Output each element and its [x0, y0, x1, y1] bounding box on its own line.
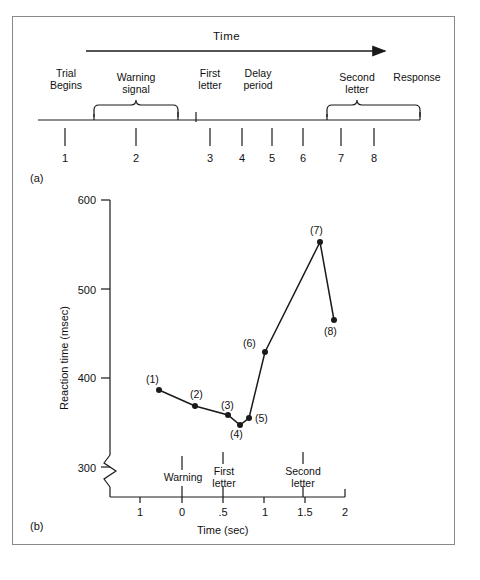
- panel-b-tag: (b): [30, 520, 43, 532]
- chart-event-first-letter: First letter: [196, 466, 252, 489]
- timeline-tick-label-6: 6: [293, 152, 313, 164]
- y-tick-label-500: 500: [62, 284, 96, 296]
- panel-a-tag: (a): [30, 172, 43, 184]
- data-point-label-1: (1): [146, 373, 159, 385]
- timeline-event-delay-period: Delay period: [230, 68, 286, 91]
- x-tick-label-0-5: .5: [211, 506, 235, 518]
- timeline-event-second-letter: Second letter: [328, 72, 386, 95]
- timeline-tick-label-5: 5: [262, 152, 282, 164]
- data-point-label-5: (5): [255, 412, 268, 424]
- timeline-tick-label-2: 2: [126, 152, 146, 164]
- chart-event-second-letter: Second letter: [272, 466, 334, 489]
- x-tick-label-1: 1: [253, 506, 277, 518]
- data-point-label-2: (2): [190, 388, 203, 400]
- x-tick-label-1-5: 1.5: [293, 506, 317, 518]
- timeline-tick-label-8: 8: [364, 152, 384, 164]
- timeline-event-warning-signal: Warning signal: [105, 72, 167, 95]
- x-axis-label: Time (sec): [197, 524, 249, 536]
- x-tick-label-0: 0: [170, 506, 194, 518]
- data-point-label-7: (7): [310, 224, 323, 236]
- timeline-tick-label-4: 4: [232, 152, 252, 164]
- x-tick-label-2: 2: [333, 506, 357, 518]
- timeline-event-response: Response: [386, 72, 448, 84]
- data-point-label-3: (3): [221, 399, 234, 411]
- y-tick-label-600: 600: [62, 194, 96, 206]
- figure-root: Time Trial Begins Warning signal First l…: [0, 0, 480, 580]
- data-point-label-8: (8): [324, 325, 337, 337]
- timeline-event-trial-begins: Trial Begins: [35, 68, 97, 91]
- data-point-label-6: (6): [243, 337, 256, 349]
- timeline-tick-label-3: 3: [200, 152, 220, 164]
- timeline-tick-label-1: 1: [55, 152, 75, 164]
- y-axis-label: Reaction time (msec): [58, 306, 70, 410]
- timeline-axis-title: Time: [213, 30, 240, 42]
- data-point-label-4: (4): [230, 428, 243, 440]
- x-tick-label-neg1: 1: [128, 506, 152, 518]
- y-tick-label-300: 300: [62, 462, 96, 474]
- timeline-tick-label-7: 7: [331, 152, 351, 164]
